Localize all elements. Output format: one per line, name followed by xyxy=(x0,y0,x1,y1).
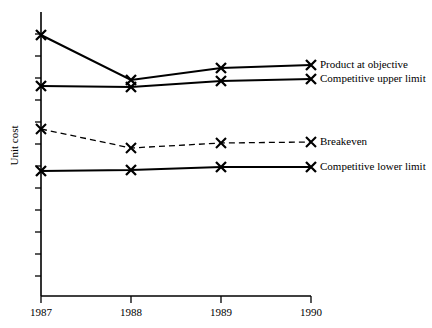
series-competitive-lower-limit xyxy=(36,162,316,176)
series-line-breakeven xyxy=(41,129,311,148)
series-label-competitive-upper-limit: Competitive upper limit xyxy=(320,73,426,84)
series-markers-breakeven xyxy=(36,124,316,153)
series-line-competitive-upper-limit xyxy=(41,79,311,87)
x-tick-label-1987: 1987 xyxy=(21,307,61,318)
series-line-product-at-objective xyxy=(41,35,311,80)
series-product-at-objective xyxy=(36,30,316,85)
series-line-competitive-lower-limit xyxy=(41,167,311,171)
series-competitive-upper-limit xyxy=(36,74,316,92)
series-label-breakeven: Breakeven xyxy=(320,136,367,147)
chart-container: Unit cost Product at objective Competiti… xyxy=(0,0,432,328)
series-breakeven xyxy=(36,124,316,153)
data-point-marker xyxy=(306,137,316,147)
series-label-competitive-lower-limit: Competitive lower limit xyxy=(320,161,426,172)
x-tick-label-1988: 1988 xyxy=(111,307,151,318)
y-axis-label: Unit cost xyxy=(9,116,20,176)
x-axis-ticks xyxy=(41,296,311,303)
series-markers-product-at-objective xyxy=(36,30,316,85)
series-label-product-at-objective: Product at objective xyxy=(320,59,408,70)
x-tick-label-1990: 1990 xyxy=(291,307,331,318)
x-tick-label-1989: 1989 xyxy=(201,307,241,318)
y-axis-ticks xyxy=(35,34,41,276)
